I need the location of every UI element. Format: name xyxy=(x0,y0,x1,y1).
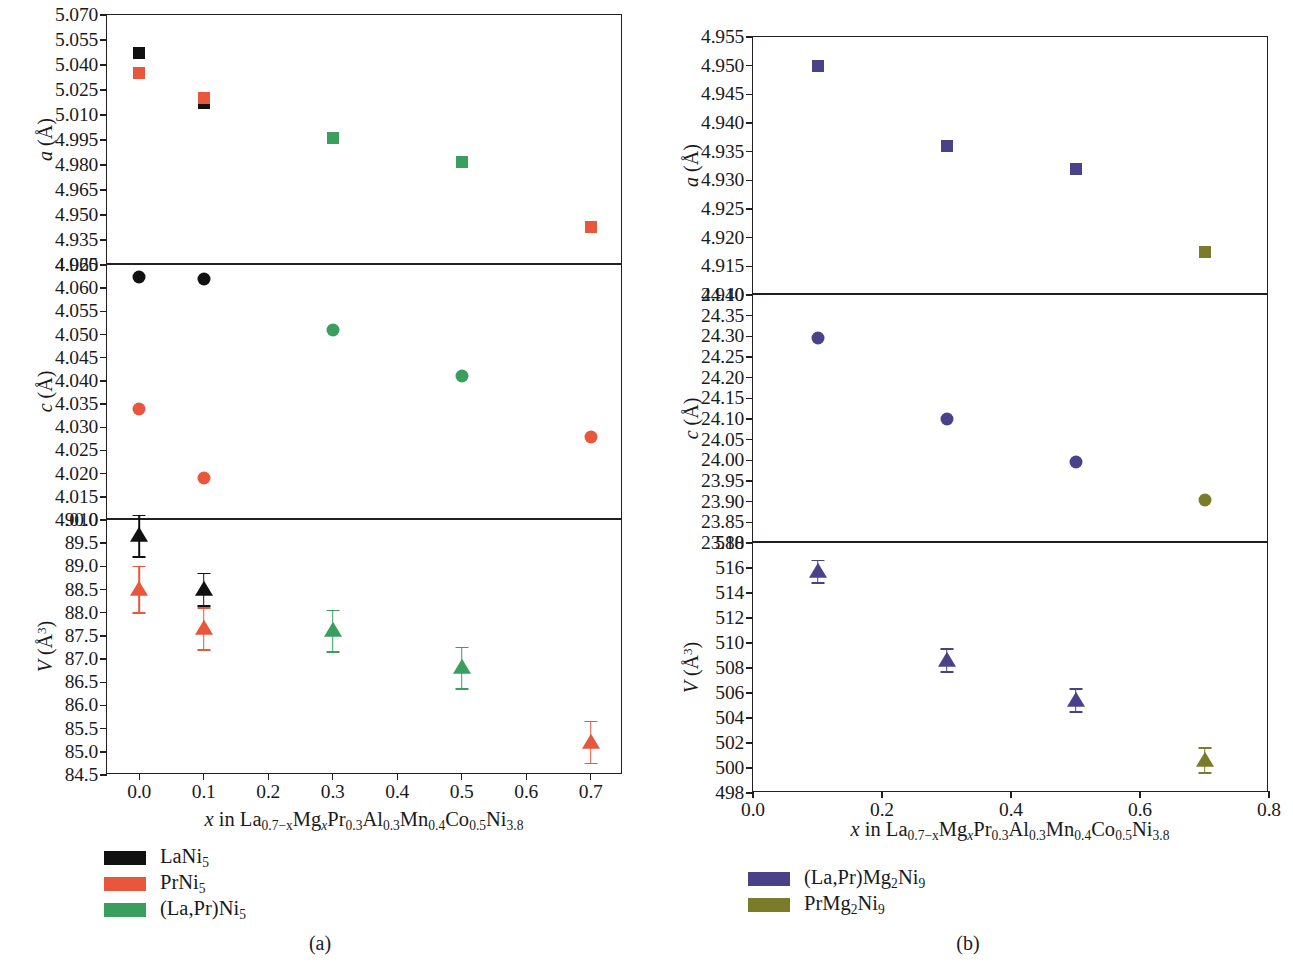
y-tick-label: 24.30 xyxy=(701,327,744,347)
y-tick-label: 514 xyxy=(715,583,744,603)
legend-color-swatch xyxy=(748,898,790,912)
legend-color-swatch xyxy=(748,872,790,886)
data-point-marker xyxy=(1198,493,1211,506)
x-tick-mark xyxy=(752,791,753,798)
y-tick-label: 4.935 xyxy=(701,142,744,162)
y-tick-mark xyxy=(746,294,753,295)
y-tick-mark xyxy=(746,36,753,37)
y-tick-mark xyxy=(746,667,753,668)
y-tick-mark xyxy=(746,94,753,95)
error-bar-cap xyxy=(811,560,824,562)
y-tick-mark xyxy=(746,208,753,209)
y-tick-label: 512 xyxy=(715,608,744,628)
y-tick-label: 24.20 xyxy=(701,368,744,388)
x-tick-label: 0.6 xyxy=(1128,800,1152,820)
panel-b: 4.9554.9504.9454.9404.9354.9304.9254.920… xyxy=(0,0,1293,963)
y-tick-mark xyxy=(746,742,753,743)
error-bar-cap xyxy=(940,648,953,650)
legend-item[interactable]: (La,Pr)Mg2Ni9 xyxy=(748,866,925,892)
y-tick-mark xyxy=(746,151,753,152)
x-tick-mark xyxy=(1268,791,1269,798)
y-tick-mark xyxy=(746,592,753,593)
y-tick-mark xyxy=(746,522,753,523)
x-tick-label: 0.2 xyxy=(870,800,894,820)
y-tick-label: 23.95 xyxy=(701,471,744,491)
x-axis-title: x in La0.7−xMgxPr0.3Al0.3Mn0.4Co0.5Ni3.8 xyxy=(851,818,1170,844)
y-tick-mark xyxy=(746,356,753,357)
y-tick-mark xyxy=(746,122,753,123)
legend-item[interactable]: PrMg2Ni9 xyxy=(748,892,925,918)
x-tick-label: 0.8 xyxy=(1257,800,1281,820)
y-tick-label: 516 xyxy=(715,558,744,578)
y-tick-label: 498 xyxy=(715,783,744,803)
y-tick-mark xyxy=(746,542,753,543)
y-tick-mark xyxy=(746,717,753,718)
y-tick-label: 518 xyxy=(715,533,744,553)
y-tick-label: 4.945 xyxy=(701,85,744,105)
y-tick-mark xyxy=(746,501,753,502)
y-tick-label: 24.15 xyxy=(701,389,744,409)
data-point-marker xyxy=(938,651,956,666)
y-tick-mark xyxy=(746,377,753,378)
y-tick-label: 508 xyxy=(715,658,744,678)
y-tick-mark xyxy=(746,767,753,768)
x-tick-label: 0.0 xyxy=(741,800,765,820)
y-tick-mark xyxy=(746,439,753,440)
data-point-marker xyxy=(809,562,827,577)
y-axis-title: a (Å) xyxy=(680,144,703,187)
x-tick-mark xyxy=(1010,791,1011,798)
y-tick-mark xyxy=(746,398,753,399)
x-tick-mark xyxy=(1139,791,1140,798)
y-tick-label: 502 xyxy=(715,733,744,753)
y-tick-label: 4.925 xyxy=(701,199,744,219)
y-tick-label: 24.05 xyxy=(701,430,744,450)
data-point-marker xyxy=(1070,163,1082,175)
y-tick-mark xyxy=(746,480,753,481)
y-tick-label: 4.920 xyxy=(701,228,744,248)
y-tick-label: 504 xyxy=(715,708,744,728)
data-point-marker xyxy=(811,332,824,345)
y-tick-label: 4.950 xyxy=(701,56,744,76)
error-bar-cap xyxy=(1069,688,1082,690)
y-tick-mark xyxy=(746,460,753,461)
error-bar-cap xyxy=(811,582,824,584)
error-bar-cap xyxy=(1198,772,1211,774)
y-axis-title: V (Å3) xyxy=(680,641,703,693)
legend-label: PrMg2Ni9 xyxy=(804,892,885,918)
data-point-marker xyxy=(941,140,953,152)
y-tick-label: 23.85 xyxy=(701,513,744,533)
y-tick-mark xyxy=(746,65,753,66)
data-point-marker xyxy=(1067,691,1085,706)
y-tick-label: 506 xyxy=(715,683,744,703)
y-axis-title: c (Å) xyxy=(680,397,703,439)
data-point-marker xyxy=(1199,246,1211,258)
y-tick-mark xyxy=(746,315,753,316)
y-tick-mark xyxy=(746,418,753,419)
y-tick-mark xyxy=(746,692,753,693)
x-tick-mark xyxy=(881,791,882,798)
y-tick-mark xyxy=(746,567,753,568)
y-tick-mark xyxy=(746,336,753,337)
y-tick-mark xyxy=(746,642,753,643)
y-tick-label: 510 xyxy=(715,633,744,653)
panel-a-caption: (a) xyxy=(309,932,331,955)
y-tick-label: 24.35 xyxy=(701,306,744,326)
plot-area-b-a-lattice: 4.9554.9504.9454.9404.9354.9304.9254.920… xyxy=(752,36,1268,294)
error-bar-cap xyxy=(1198,747,1211,749)
y-tick-label: 24.00 xyxy=(701,451,744,471)
x-tick-label: 0.4 xyxy=(999,800,1023,820)
y-tick-label: 24.25 xyxy=(701,347,744,367)
y-tick-mark xyxy=(746,266,753,267)
y-tick-label: 4.940 xyxy=(701,113,744,133)
y-tick-mark xyxy=(746,617,753,618)
y-tick-mark xyxy=(746,180,753,181)
data-point-marker xyxy=(1196,751,1214,766)
data-point-marker xyxy=(1069,456,1082,469)
error-bar-cap xyxy=(1069,711,1082,713)
y-tick-label: 4.930 xyxy=(701,171,744,191)
y-tick-label: 4.955 xyxy=(701,27,744,47)
y-tick-label: 4.915 xyxy=(701,257,744,277)
error-bar-cap xyxy=(940,671,953,673)
y-tick-label: 24.40 xyxy=(701,285,744,305)
plot-area-b-c-lattice: 24.4024.3524.3024.2524.2024.1524.1024.05… xyxy=(752,294,1268,542)
